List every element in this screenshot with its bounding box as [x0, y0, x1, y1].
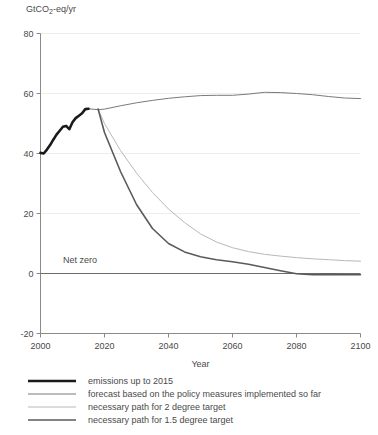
data-series-group — [41, 92, 361, 274]
x-tick-label: 2060 — [222, 341, 242, 351]
legend-item-label: necessary path for 2 degree target — [88, 402, 226, 412]
chart-canvas: 806040200-20200020202040206020802100 Net… — [0, 0, 378, 435]
axes-group — [41, 34, 361, 334]
gridlines-group — [41, 34, 361, 334]
legend-item-label: necessary path for 1.5 degree target — [88, 415, 234, 425]
net-zero-annotation: Net zero — [63, 255, 97, 265]
y-tick-label: 80 — [23, 29, 33, 39]
y-axis-unit-label: GtCO2-eq/yr — [26, 4, 76, 14]
tick-labels-group: 806040200-20200020202040206020802100 — [20, 29, 370, 351]
y-tick-label: 20 — [23, 209, 33, 219]
x-tick-label: 2040 — [158, 341, 178, 351]
emissions-pathways-chart: GtCO2-eq/yr 806040200-202000202020402060… — [0, 0, 378, 435]
legend-item-label: emissions up to 2015 — [88, 376, 173, 386]
y-tick-label: 40 — [23, 149, 33, 159]
x-axis-title: Year — [191, 359, 209, 369]
x-tick-label: 2000 — [30, 341, 50, 351]
y-tick-label: 0 — [28, 269, 33, 279]
y-tick-label: -20 — [20, 329, 33, 339]
tick-marks-group — [37, 34, 361, 338]
x-tick-label: 2020 — [94, 341, 114, 351]
annotations-group: Net zero — [63, 255, 97, 265]
series-line — [89, 92, 361, 109]
x-axis-title-group: Year — [191, 359, 209, 369]
x-tick-label: 2100 — [350, 341, 370, 351]
legend-item-label: forecast based on the policy measures im… — [88, 389, 321, 399]
y-axis-unit-pre: GtCO — [26, 4, 49, 14]
legend-group: emissions up to 2015forecast based on th… — [28, 376, 321, 425]
y-tick-label: 60 — [23, 89, 33, 99]
y-axis-unit-subscript: 2 — [49, 8, 53, 15]
series-line — [98, 109, 360, 261]
y-axis-unit-post: -eq/yr — [53, 4, 76, 14]
series-line — [41, 109, 89, 154]
x-tick-label: 2080 — [286, 341, 306, 351]
series-line — [98, 109, 360, 275]
